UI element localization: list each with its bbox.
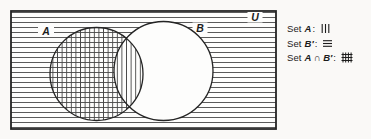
crosshatch-grid-icon bbox=[341, 52, 353, 63]
legend-item-set-b-complement: Set B′ : bbox=[287, 38, 353, 49]
legend-label-prefix: Set bbox=[287, 52, 302, 63]
legend-separator: : bbox=[312, 23, 315, 34]
horizontal-lines-icon bbox=[322, 38, 333, 49]
set-a-label: A bbox=[41, 25, 50, 37]
universal-set-label: U bbox=[251, 11, 259, 23]
legend-set-name: A ∩ B′ bbox=[305, 52, 333, 63]
legend-separator: : bbox=[315, 38, 318, 49]
legend-set-name: B′ bbox=[305, 38, 314, 49]
venn-diagram-figure: A B U Set A : Set B′ : Set bbox=[0, 0, 371, 139]
set-b-label: B bbox=[196, 22, 204, 34]
legend-label-prefix: Set bbox=[287, 38, 302, 49]
legend-label-prefix: Set bbox=[287, 23, 302, 34]
legend-separator: : bbox=[333, 52, 336, 63]
legend-set-name: A bbox=[305, 23, 312, 34]
legend-item-set-a: Set A : bbox=[287, 23, 353, 34]
vertical-lines-icon bbox=[320, 23, 331, 34]
venn-diagram: A B U bbox=[0, 0, 371, 139]
legend: Set A : Set B′ : Set A ∩ B′ : bbox=[287, 23, 353, 67]
legend-item-a-intersect-b-complement: Set A ∩ B′ : bbox=[287, 52, 353, 63]
